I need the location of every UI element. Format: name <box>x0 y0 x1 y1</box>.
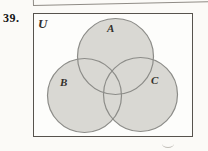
universe-label: U <box>38 17 47 30</box>
set-a-label: A <box>107 23 114 34</box>
problem-number: 39. <box>3 11 20 26</box>
universe-box: U A B C <box>33 13 193 137</box>
print-smudge-artifact <box>162 140 174 148</box>
set-b-label: B <box>60 77 67 88</box>
set-c-label: C <box>151 75 158 86</box>
previous-figure-box-edge <box>33 0 208 6</box>
textbook-exercise-figure: 39. U A B C <box>0 0 208 151</box>
